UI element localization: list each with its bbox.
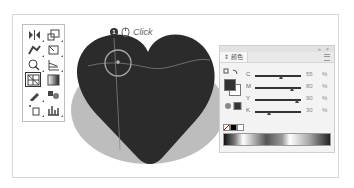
slider-thumb[interactable] — [295, 99, 299, 103]
slider-value[interactable]: 30 — [306, 107, 313, 113]
slider-row-k: K 30 % — [246, 106, 332, 116]
color-panel: » × ⇕ 颜色 C 55 % M 80 % Y 90 % K 30 % — [219, 45, 335, 153]
slider-unit: % — [322, 71, 327, 77]
color-spectrum[interactable] — [223, 133, 331, 146]
click-label: Click — [133, 27, 153, 37]
out-of-gamut-icon[interactable] — [224, 102, 242, 110]
black-swatch[interactable] — [230, 124, 237, 131]
mouse-icon — [121, 26, 130, 37]
slider-value[interactable]: 55 — [306, 71, 313, 77]
tab-color[interactable]: ⇕ 颜色 — [220, 52, 248, 62]
fill-swatch[interactable] — [224, 79, 236, 91]
slider-row-c: C 55 % — [246, 70, 332, 80]
slider-row-y: Y 90 % — [246, 94, 332, 104]
slider-value[interactable]: 90 — [306, 95, 313, 101]
slider-track[interactable] — [255, 111, 301, 113]
white-swatch[interactable] — [237, 124, 244, 131]
default-swap-icon[interactable] — [223, 68, 241, 76]
slider-thumb[interactable] — [267, 111, 271, 115]
slider-label: Y — [246, 95, 250, 101]
slider-label: M — [246, 83, 251, 89]
slider-label: K — [246, 107, 250, 113]
slider-value[interactable]: 80 — [306, 83, 313, 89]
panel-menu-icon[interactable] — [324, 54, 330, 61]
slider-track[interactable] — [255, 75, 301, 77]
step-number: 1 — [110, 28, 118, 36]
none-swatch[interactable] — [223, 124, 230, 131]
slider-unit: % — [322, 95, 327, 101]
slider-thumb[interactable] — [290, 87, 294, 91]
slider-track[interactable] — [255, 87, 301, 89]
tab-color-label: 颜色 — [231, 54, 243, 60]
click-callout: 1 Click — [110, 26, 153, 37]
slider-thumb[interactable] — [279, 75, 283, 79]
slider-unit: % — [322, 83, 327, 89]
quick-swatches — [223, 124, 244, 131]
slider-row-m: M 80 % — [246, 82, 332, 92]
fill-stroke-area — [223, 68, 243, 128]
slider-label: C — [246, 71, 250, 77]
panel-tabbar: ⇕ 颜色 — [220, 52, 334, 63]
slider-unit: % — [322, 107, 327, 113]
